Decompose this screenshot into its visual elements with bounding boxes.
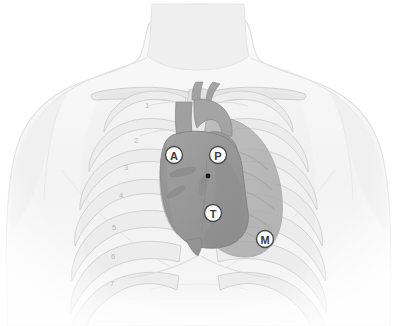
marker-tricuspid-letter: T: [210, 208, 217, 220]
rib-number-4: 4: [119, 191, 123, 200]
center-reference-dot: [206, 174, 211, 179]
marker-aortic[interactable]: A: [166, 147, 183, 164]
rib-number-5: 5: [112, 223, 116, 232]
rib-number-3: 3: [124, 163, 128, 172]
rib-number-2: 2: [134, 136, 138, 145]
marker-mitral-letter: M: [260, 234, 269, 246]
marker-pulmonic-letter: P: [214, 150, 221, 162]
rib-number-7: 7: [110, 279, 114, 288]
chest-anatomy-illustration: 1 2 3 4 5 6 7 A P T: [0, 0, 397, 326]
marker-tricuspid[interactable]: T: [205, 205, 222, 222]
marker-aortic-letter: A: [170, 150, 178, 162]
rib-number-6: 6: [111, 252, 115, 261]
rib-number-1: 1: [145, 101, 149, 110]
marker-mitral[interactable]: M: [257, 231, 274, 248]
anatomy-figure: 1 2 3 4 5 6 7 A P T: [0, 0, 397, 326]
edge-vignette: [0, 0, 397, 326]
marker-pulmonic[interactable]: P: [210, 147, 227, 164]
